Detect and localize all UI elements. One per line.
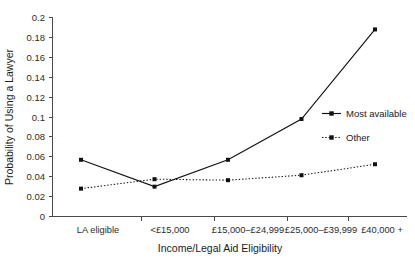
y-tick-label-6: 0.12 [27,92,46,103]
series-group [79,27,377,190]
legend-swatch-marker-1 [329,135,333,139]
y-axis-ticks [49,18,53,217]
data-point [153,185,157,189]
y-tick-label-2: 0.04 [27,171,46,182]
y-tick-label-3: 0.06 [27,151,46,162]
legend-label-0: Most available [346,108,407,119]
line-chart: 0 0.02 0.04 0.06 0.08 0.1 0.12 0.14 0.16… [0,0,415,259]
series-markers-most-available [79,27,377,188]
data-point [373,27,377,31]
series-line-most-available [81,29,375,186]
data-point [373,162,377,166]
data-point [300,117,304,121]
data-point [79,158,83,162]
y-tick-label-1: 0.02 [27,191,46,202]
y-tick-label-9: 0.18 [27,32,46,43]
x-tick-label-0: LA eligible [77,225,119,235]
y-tick-label-4: 0.08 [27,131,46,142]
x-tick-label-1: <£15,000 [150,225,189,235]
y-axis-tick-labels: 0 0.02 0.04 0.06 0.08 0.1 0.12 0.14 0.16… [27,12,46,222]
x-tick-label-4: £40,000 + [361,225,403,235]
series-markers-other [79,162,377,190]
y-tick-label-5: 0.1 [32,112,45,123]
data-point [300,173,304,177]
y-axis-title: Probability of Using a Lawyer [3,49,15,185]
y-tick-label-10: 0.2 [32,12,45,23]
legend-item-other[interactable]: Other [322,132,370,143]
legend: Most available Other [322,108,407,143]
legend-swatch-marker-0 [329,111,333,115]
data-point [226,158,230,162]
x-axis-ticks [141,217,348,221]
y-tick-label-8: 0.16 [27,52,46,63]
data-point [153,177,157,181]
legend-label-1: Other [346,132,370,143]
x-axis-title: Income/Legal Aid Eligibility [158,242,283,254]
chart-figure: 0 0.02 0.04 0.06 0.08 0.1 0.12 0.14 0.16… [0,0,415,259]
y-tick-label-7: 0.14 [27,72,46,83]
x-tick-label-2: £15,000–£24,999 [212,225,284,235]
y-tick-label-0: 0 [40,211,45,222]
x-axis-tick-labels: LA eligible <£15,000 £15,000–£24,999 £25… [77,225,403,235]
x-tick-label-3: £25,000–£39,999 [285,225,357,235]
legend-item-most-available[interactable]: Most available [322,108,407,119]
data-point [226,178,230,182]
data-point [79,187,83,191]
